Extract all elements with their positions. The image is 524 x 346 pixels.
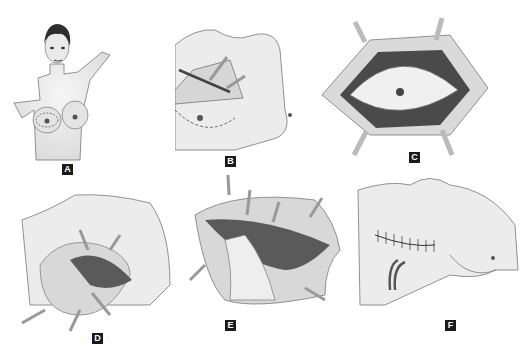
panel-label-a: A — [62, 164, 73, 175]
panel-label-d: D — [92, 333, 103, 344]
panel-label-c: C — [409, 152, 420, 163]
skin-island-illustration — [310, 0, 524, 175]
panel-label-e: E — [225, 320, 236, 331]
panel-a: A — [0, 0, 175, 175]
panel-b: B — [175, 0, 310, 175]
panel-label-b: B — [225, 156, 236, 167]
panel-d: D — [0, 175, 175, 346]
panel-e: E — [175, 170, 350, 346]
panel-f: F — [350, 170, 524, 346]
incision-illustration — [175, 0, 310, 175]
pectoral-exposure-illustration — [175, 170, 350, 346]
panel-label-f: F — [445, 320, 456, 331]
patient-frontal-illustration — [0, 0, 175, 175]
closed-suture-illustration — [350, 170, 524, 346]
breast-tissue-removal-illustration — [0, 175, 175, 346]
panel-c: C — [310, 0, 524, 175]
